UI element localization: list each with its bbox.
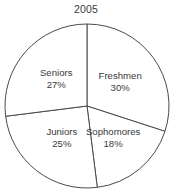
pie-chart-figure: 2005 Freshmen 30% Sophomores 18% Juniors… [0, 0, 172, 196]
slice-label-percent: 27% [6, 79, 106, 91]
pie-chart-svg [0, 0, 172, 196]
pie-slice-group [5, 24, 169, 188]
slice-label-seniors: Seniors 27% [6, 67, 106, 91]
slice-label-name: Seniors [6, 67, 106, 79]
slice-label-juniors: Juniors 25% [12, 126, 112, 150]
slice-label-percent: 25% [12, 138, 112, 150]
slice-label-name: Juniors [12, 126, 112, 138]
